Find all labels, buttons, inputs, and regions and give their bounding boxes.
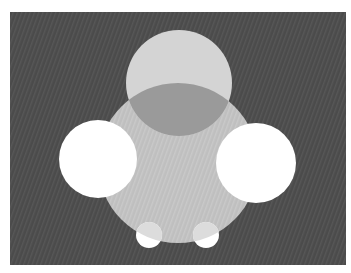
left-white-circle — [59, 120, 137, 198]
right-white-circle — [216, 123, 296, 203]
figure-canvas — [0, 0, 351, 273]
